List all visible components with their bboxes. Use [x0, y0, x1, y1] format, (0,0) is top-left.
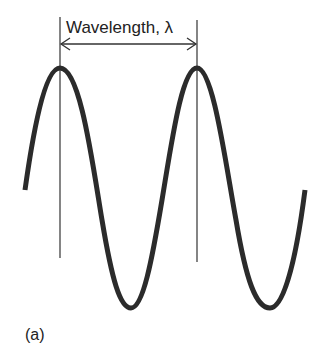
wavelength-dimension-arrow	[61, 38, 196, 50]
wavelength-label: Wavelength, λ	[66, 18, 174, 37]
panel-label: (a)	[25, 326, 45, 343]
sine-wave-curve	[25, 68, 305, 308]
wavelength-diagram: Wavelength, λ (a)	[0, 0, 333, 353]
